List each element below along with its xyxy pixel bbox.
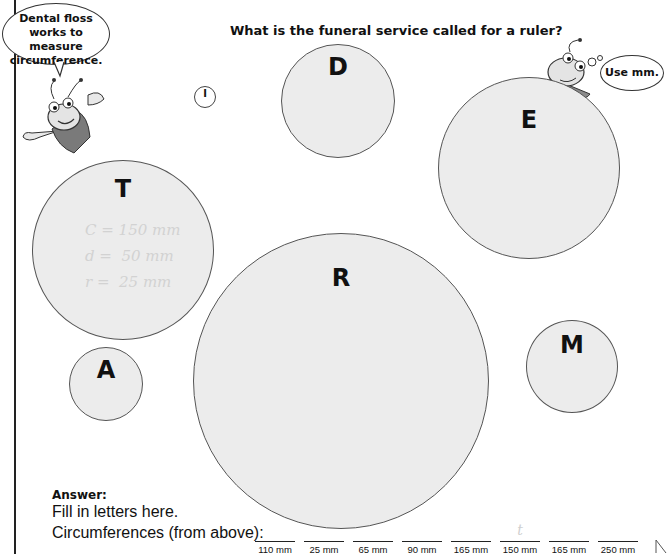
blank-mm-label: 110 mm [251, 544, 299, 554]
circle-letter: A [70, 356, 142, 384]
answer-blank[interactable]: 165 mm [451, 522, 491, 548]
circle-letter: T [33, 175, 213, 203]
blank-mm-label: 165 mm [545, 544, 593, 554]
answer-blank[interactable]: 65 mm [353, 522, 393, 548]
speech-bubble-left: Dental floss works to measure circumfere… [2, 3, 110, 65]
answer-blank[interactable]: 110 mm [255, 522, 295, 548]
circumference-label: Circumferences (from above): [52, 524, 264, 542]
circle-E: E [438, 77, 620, 259]
margin-rule [14, 0, 16, 554]
circle-note: d = 50 mm [85, 247, 174, 265]
question-title: What is the funeral service called for a… [230, 23, 562, 38]
blank-line [304, 541, 344, 542]
circle-M: M [526, 320, 618, 413]
answer-blank[interactable]: 90 mm [402, 522, 442, 548]
blank-mm-label: 25 mm [300, 544, 348, 554]
bug-mascot-left-icon [18, 75, 108, 155]
answer-instruction: Fill in letters here. [52, 503, 178, 521]
circle-letter: M [527, 331, 617, 359]
circle-A: A [69, 347, 143, 421]
page-corner-arrow-icon [655, 539, 667, 554]
small-marker-circle: I [194, 86, 216, 108]
small-marker-label: I [195, 88, 215, 99]
speech-bubble-right-text: Use mm. [605, 66, 659, 79]
blank-line [500, 541, 540, 542]
circle-note: r = 25 mm [85, 273, 171, 291]
blank-line [255, 541, 295, 542]
blank-line [598, 541, 638, 542]
answer-label: Answer: [52, 488, 107, 502]
answer-blank[interactable]: t 150 mm [500, 522, 540, 548]
answer-blank[interactable]: 165 mm [549, 522, 589, 548]
speech-bubble-left-text: Dental floss works to measure circumfere… [10, 12, 103, 67]
circle-note: C = 150 mm [85, 221, 180, 239]
answer-blanks: 110 mm 25 mm 65 mm 90 mm 165 mm t 150 mm… [255, 522, 638, 548]
circle-R: R [193, 233, 489, 529]
blank-line [549, 541, 589, 542]
blank-line [402, 541, 442, 542]
circle-T: T C = 150 mm d = 50 mm r = 25 mm [32, 160, 214, 340]
blank-mm-label: 65 mm [349, 544, 397, 554]
circle-letter: R [194, 264, 488, 292]
answer-blank[interactable]: 25 mm [304, 522, 344, 548]
blank-mm-label: 250 mm [594, 544, 642, 554]
blank-line [353, 541, 393, 542]
blank-mm-label: 150 mm [496, 544, 544, 554]
blank-mm-label: 90 mm [398, 544, 446, 554]
blank-line [451, 541, 491, 542]
circle-D: D [281, 44, 395, 158]
circle-letter: D [282, 53, 394, 81]
written-letter: t [500, 522, 540, 538]
answer-blank[interactable]: 250 mm [598, 522, 638, 548]
circle-letter: E [439, 106, 619, 134]
blank-mm-label: 165 mm [447, 544, 495, 554]
